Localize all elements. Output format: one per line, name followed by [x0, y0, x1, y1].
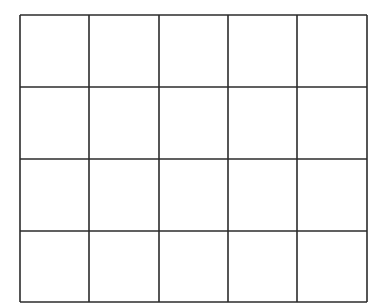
grid-cell-r1-c1 — [20, 15, 89, 87]
grid-cell-r3-c1 — [20, 159, 89, 231]
grid-cell-r4-c4 — [228, 231, 297, 302]
grid-cell-r2-c2 — [89, 87, 159, 159]
grid-cell-r3-c5 — [297, 159, 367, 231]
grid-cell-r1-c2 — [89, 15, 159, 87]
grid-cell-r1-c4 — [228, 15, 297, 87]
grid-cell-r4-c1 — [20, 231, 89, 302]
grid-cell-r4-c3 — [159, 231, 228, 302]
grid-cell-r3-c4 — [228, 159, 297, 231]
grid-cell-r2-c5 — [297, 87, 367, 159]
grid-cell-r1-c3 — [159, 15, 228, 87]
grid-canvas: empty-grid — [0, 0, 388, 304]
grid-cell-r3-c3 — [159, 159, 228, 231]
grid-cell-r3-c2 — [89, 159, 159, 231]
empty-grid-diagram — [0, 0, 388, 304]
grid-cell-r2-c4 — [228, 87, 297, 159]
grid-cell-r4-c5 — [297, 231, 367, 302]
grid-cell-r1-c5 — [297, 15, 367, 87]
grid-cell-r2-c3 — [159, 87, 228, 159]
grid-cell-r4-c2 — [89, 231, 159, 302]
grid-cell-r2-c1 — [20, 87, 89, 159]
